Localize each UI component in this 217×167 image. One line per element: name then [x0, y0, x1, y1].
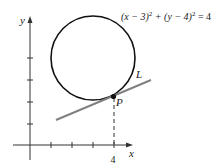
- y-axis: [27, 16, 33, 160]
- line-label-L: L: [135, 68, 142, 80]
- equation-part-1: (x − 3): [121, 11, 150, 23]
- circle-curve: [51, 16, 135, 100]
- equation-part-2: + (y − 4): [152, 11, 192, 23]
- circle-equation: (x − 3)2 + (y − 4)2 = 4: [121, 10, 211, 23]
- x-axis: [13, 142, 133, 148]
- tangent-line-L: [56, 80, 151, 120]
- y-axis-arrow-icon: [28, 16, 33, 23]
- circle-tangent-diagram: y x 4 L P (x − 3)2 + (y − 4)2 = 4: [0, 0, 217, 167]
- point-label-P: P: [115, 96, 123, 108]
- x-tick-label-4: 4: [111, 154, 116, 165]
- equation-part-3: = 4: [195, 11, 211, 22]
- y-axis-label: y: [19, 14, 25, 26]
- x-axis-label: x: [128, 147, 134, 159]
